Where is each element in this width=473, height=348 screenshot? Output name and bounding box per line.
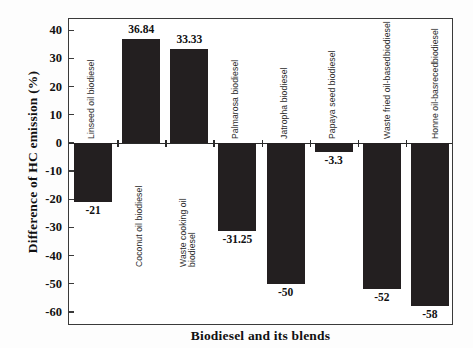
x-tick-mark [406, 140, 407, 147]
y-tick-mark [69, 311, 74, 312]
bar-value-label: -58 [422, 308, 437, 320]
x-axis-title: Biodiesel and its blends [68, 328, 453, 344]
x-tick-mark [358, 140, 359, 147]
bar-value-label: -3.3 [325, 154, 343, 166]
y-tick-label: 0 [56, 135, 62, 150]
y-tick-mark [69, 30, 74, 31]
y-tick-mark [69, 283, 74, 284]
x-tick-mark [310, 140, 311, 147]
category-label: Honne oil-basrecedbiodiesel [420, 43, 440, 139]
y-tick-label: 20 [50, 79, 63, 94]
y-tick-mark [69, 58, 74, 59]
category-label: Linseed oil biodiesel [87, 43, 96, 139]
x-tick-mark [165, 140, 166, 147]
y-tick-label: 10 [50, 107, 63, 122]
category-label: Jatropha biodiesel [280, 43, 289, 139]
bar-value-label: -31.25 [223, 233, 253, 245]
y-tick-label: 40 [50, 23, 63, 38]
bar [74, 143, 112, 202]
bar [363, 143, 401, 289]
y-axis-title: Difference of HC emission (%) [25, 17, 41, 307]
category-label: Palmarosa biodiesel [231, 43, 240, 139]
figure: Difference of HC emission (%) Biodiesel … [0, 0, 473, 348]
y-tick-label: -40 [45, 248, 62, 263]
bar-value-label: 33.33 [176, 33, 202, 45]
y-tick-label: -30 [45, 220, 62, 235]
category-label: Papaya seed biodiesel [328, 43, 337, 139]
category-label: Waste fried oil-basedbiodiesel [372, 43, 392, 139]
y-tick-label: -50 [45, 276, 62, 291]
y-tick-label: -60 [45, 304, 62, 319]
y-tick-mark [69, 86, 74, 87]
bar-value-label: 36.84 [128, 23, 154, 35]
bar [411, 143, 449, 306]
x-tick-mark [262, 140, 263, 147]
category-label: Coconut oil biodiesel [135, 149, 144, 267]
bar-value-label: -21 [85, 204, 100, 216]
y-tick-label: -20 [45, 192, 62, 207]
category-label: Waste cooking oilbiodiesel [179, 149, 199, 267]
bar [267, 143, 305, 284]
x-tick-mark [213, 140, 214, 147]
y-tick-mark [69, 227, 74, 228]
plot-area: 403020100-10-20-30-40-50-60 -2136.8433.3… [68, 18, 453, 325]
bar [170, 49, 208, 143]
bar [122, 39, 160, 143]
bar-value-label: -52 [374, 291, 389, 303]
y-tick-mark [69, 114, 74, 115]
x-tick-mark [117, 140, 118, 147]
bar-value-label: -50 [278, 286, 293, 298]
y-tick-label: -10 [45, 164, 62, 179]
bar [218, 143, 256, 231]
bar [315, 143, 353, 152]
y-tick-mark [69, 255, 74, 256]
y-tick-label: 30 [50, 51, 63, 66]
